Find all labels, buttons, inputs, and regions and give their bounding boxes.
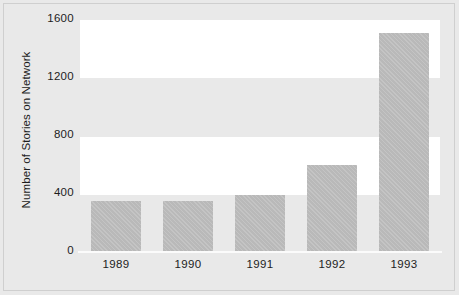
x-tick-1989: 1989 bbox=[80, 258, 152, 270]
plot-area bbox=[80, 20, 440, 252]
y-tick-1600: 1600 bbox=[28, 12, 74, 24]
y-axis-ticks: 1600 1200 800 400 0 bbox=[22, 0, 74, 295]
y-tick-400: 400 bbox=[28, 186, 74, 198]
bar-1989 bbox=[91, 201, 141, 252]
bar-1990 bbox=[163, 201, 213, 252]
bar-1993 bbox=[379, 33, 429, 252]
bar-1991 bbox=[235, 195, 285, 252]
x-tick-1993: 1993 bbox=[368, 258, 440, 270]
x-tick-1991: 1991 bbox=[224, 258, 296, 270]
y-tick-800: 800 bbox=[28, 128, 74, 140]
bar-1992 bbox=[307, 165, 357, 252]
y-tick-1200: 1200 bbox=[28, 70, 74, 82]
chart-page: Number of Stories on Network 1600 1200 8… bbox=[0, 0, 459, 295]
x-tick-1990: 1990 bbox=[152, 258, 224, 270]
x-axis-line bbox=[78, 251, 442, 253]
x-tick-1992: 1992 bbox=[296, 258, 368, 270]
y-tick-0: 0 bbox=[28, 244, 74, 256]
